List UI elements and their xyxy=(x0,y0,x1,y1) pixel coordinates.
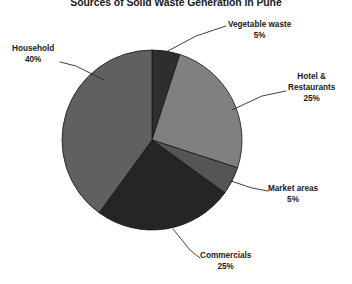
callout-value-hotel-restaurants: 25% xyxy=(288,94,335,105)
callout-label-hotel-restaurants-line2: Restaurants xyxy=(288,83,335,94)
callout-market-areas: Market areas 5% xyxy=(268,184,318,206)
callout-label-hotel-restaurants-line1: Hotel & xyxy=(297,72,326,81)
callout-household: Household 40% xyxy=(12,44,54,66)
pie-slices xyxy=(62,50,242,230)
callout-label-market-areas: Market areas xyxy=(268,184,318,193)
callout-commercials: Commercials 25% xyxy=(200,251,251,273)
callout-value-household: 40% xyxy=(12,55,54,66)
leader-line-hotel-restaurants xyxy=(232,91,286,110)
callout-value-market-areas: 5% xyxy=(268,195,318,206)
leader-line-vegetable-waste xyxy=(166,26,226,52)
pie-chart-graphic xyxy=(0,0,352,284)
callout-value-vegetable-waste: 5% xyxy=(228,31,291,42)
leader-line-market-areas xyxy=(231,181,268,191)
leader-line-commercials xyxy=(173,229,200,258)
callout-label-household: Household xyxy=(12,44,54,53)
callout-vegetable-waste: Vegetable waste 5% xyxy=(228,20,291,42)
callout-value-commercials: 25% xyxy=(200,262,251,273)
callout-hotel-restaurants: Hotel & Restaurants 25% xyxy=(288,72,335,104)
callout-label-commercials: Commercials xyxy=(200,251,251,260)
callout-label-vegetable-waste: Vegetable waste xyxy=(228,20,291,29)
pie-chart-figure: Sources of Solid Waste Generation in Pun… xyxy=(0,0,352,284)
